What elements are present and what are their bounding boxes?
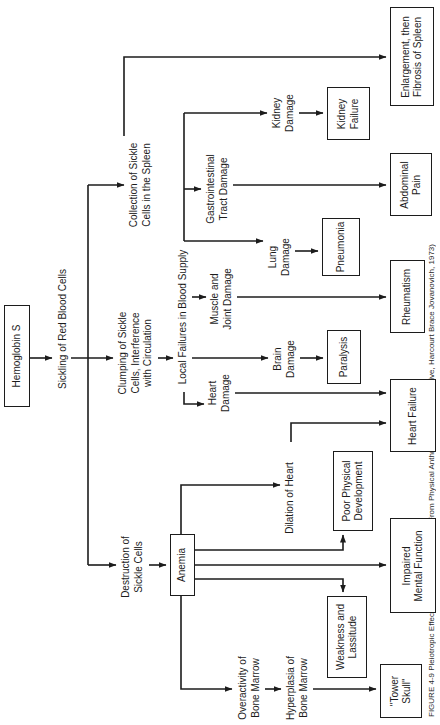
- node-hemoglobin-s: Hemoglobin S: [4, 305, 30, 407]
- edge-anemia-poorphysical: [195, 535, 343, 550]
- node-rheumatism: Rheumatism: [390, 261, 425, 334]
- node-kidney-failure: Kidney Failure: [327, 88, 370, 141]
- node-poor-physical: Poor Physical Development: [333, 451, 373, 531]
- node-overactivity: Overactivity of Bone Marrow: [237, 656, 262, 719]
- node-impaired: Impaired Mental Function: [390, 519, 436, 614]
- node-weakness: Weakness and Lassitude: [327, 596, 367, 678]
- edge-anemia-overactivity: [181, 596, 232, 689]
- flowchart-canvas: FIGURE 4-9 Pleiotropic Effects of Sickle…: [0, 0, 440, 725]
- node-collection: Collection of Sickle Cells in the Spleen: [128, 143, 153, 227]
- node-anemia: Anemia: [170, 534, 195, 596]
- node-sickling: Sickling of Red Blood Cells: [57, 269, 70, 389]
- node-clumping: Clumping of Sickle Cells, Interference w…: [117, 312, 155, 395]
- edge-drop-heart: [184, 392, 204, 404]
- node-brain-damage: Brain Damage: [272, 340, 297, 378]
- node-hyperplasia: Hyperplasia of Bone Marrow: [285, 656, 310, 720]
- node-destruction: Destruction of Sickle Cells: [120, 536, 145, 598]
- node-local-failures: Local Failures in Blood Supply: [177, 250, 190, 385]
- edge-anemia-dilation: [181, 485, 280, 534]
- node-paralysis: Paralysis: [327, 330, 361, 384]
- edge-anemia-weakness: [195, 579, 343, 592]
- node-gi-damage: Gastrointestinal Tract Damage: [205, 154, 230, 223]
- node-pneumonia: Pneumonia: [322, 218, 360, 276]
- node-enlargement: Enlargement, then Fibrosis of Spleen: [390, 8, 434, 107]
- node-muscle-joint-damage: Muscle and Joint Damage: [209, 268, 234, 330]
- node-heart-failure: Heart Failure: [390, 380, 436, 453]
- node-lung-damage: Lung Damage: [267, 238, 292, 276]
- node-kidney-damage: Kidney Damage: [271, 94, 296, 132]
- node-tower-skull: "Tower Skull": [380, 664, 422, 718]
- edge-dilation-heartfailure: [291, 423, 386, 442]
- node-abdominal-pain: Abdominal Pain: [390, 154, 432, 217]
- node-heart-damage: Heart Damage: [207, 374, 232, 412]
- node-dilation: Dilation of Heart: [284, 462, 297, 534]
